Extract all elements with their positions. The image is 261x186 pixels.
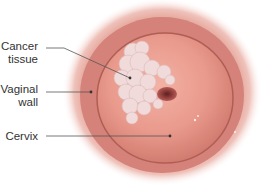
label-cancer-tissue: Cancer tissue	[0, 40, 38, 66]
label-cervix: Cervix	[0, 130, 38, 143]
cervical-os	[157, 87, 177, 101]
label-line: Cancer	[0, 40, 38, 53]
label-line: wall	[0, 96, 38, 109]
label-vaginal-wall: Vaginal wall	[0, 83, 38, 109]
cervix-illustration	[0, 0, 261, 186]
label-line: Vaginal	[0, 83, 38, 96]
label-line: tissue	[0, 53, 38, 66]
cervix-diagram: Cancer tissue Vaginal wall Cervix	[0, 0, 261, 186]
label-line: Cervix	[0, 130, 38, 143]
